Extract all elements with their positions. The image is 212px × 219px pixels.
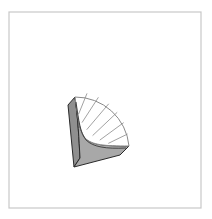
figure-canvas: 3D rendered quarter-cylinder wedge solid… bbox=[0, 0, 212, 219]
wedge-solid bbox=[68, 93, 129, 167]
wedge-diagram bbox=[0, 0, 212, 219]
